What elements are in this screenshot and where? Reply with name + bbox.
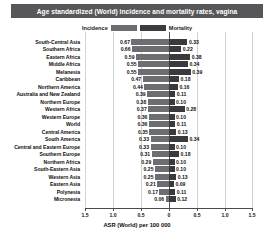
incidence-value-label: 0.66 xyxy=(121,46,131,52)
category-label: Western Africa xyxy=(0,106,83,114)
category-label: Micronesia xyxy=(0,196,83,204)
category-label: South America xyxy=(0,136,83,144)
incidence-group: 0.33 xyxy=(139,136,169,142)
mortality-group: 0.12 xyxy=(169,196,187,202)
bar-row: 0.060.12 xyxy=(85,196,253,204)
mortality-group: 0.33 xyxy=(169,39,199,45)
incidence-value-label: 0.44 xyxy=(133,84,143,90)
mortality-group: 0.10 xyxy=(169,114,186,120)
incidence-value-label: 0.47 xyxy=(131,76,141,82)
incidence-group: 0.25 xyxy=(144,174,169,180)
incidence-group: 0.35 xyxy=(138,129,169,135)
mortality-bar xyxy=(169,54,190,60)
bar-row: 0.390.11 xyxy=(85,91,253,99)
incidence-bar xyxy=(151,144,169,150)
mortality-group: 0.10 xyxy=(169,159,186,165)
incidence-group: 0.39 xyxy=(136,91,169,97)
incidence-group: 0.66 xyxy=(121,46,169,52)
category-label-text: Middle Africa xyxy=(49,61,80,67)
mortality-bar xyxy=(169,84,178,90)
incidence-value-label: 0.38 xyxy=(136,99,146,105)
bar-row: 0.380.10 xyxy=(85,98,253,106)
category-label: Southern Africa xyxy=(0,46,83,54)
incidence-bar xyxy=(149,121,169,127)
mortality-bar xyxy=(169,69,191,75)
incidence-group: 0.55 xyxy=(127,61,169,67)
mortality-value-label: 0.11 xyxy=(177,189,187,195)
bar-row: 0.550.34 xyxy=(85,61,253,69)
category-label: Western Europe xyxy=(0,113,83,121)
category-label-text: Melanesia xyxy=(56,69,80,75)
mortality-value-label: 0.10 xyxy=(176,114,186,120)
incidence-bar xyxy=(148,99,169,105)
mortality-group: 0.11 xyxy=(169,189,186,195)
bar-row: 0.670.33 xyxy=(85,38,253,46)
incidence-group: 0.36 xyxy=(137,114,169,120)
incidence-bar xyxy=(138,61,169,67)
mortality-group: 0.10 xyxy=(169,144,186,150)
bar-row: 0.330.34 xyxy=(85,136,253,144)
x-axis-tick xyxy=(252,208,253,211)
bar-row: 0.250.13 xyxy=(85,173,253,181)
incidence-value-label: 0.17 xyxy=(148,189,158,195)
bar-row: 0.290.10 xyxy=(85,158,253,166)
mortality-group: 0.34 xyxy=(169,136,199,142)
mortality-bar xyxy=(169,181,174,187)
category-label-text: Western Europe xyxy=(42,114,80,120)
chart-container: Age standardized (World) incidence and m… xyxy=(0,0,274,239)
incidence-group: 0.47 xyxy=(131,76,169,82)
mortality-group: 0.11 xyxy=(169,121,186,127)
page-title: Age standardized (World) incidence and m… xyxy=(37,8,237,15)
bar-row: 0.330.10 xyxy=(85,143,253,151)
mortality-value-label: 0.10 xyxy=(176,166,186,172)
incidence-bar xyxy=(136,54,169,60)
mortality-bar xyxy=(169,189,175,195)
incidence-value-label: 0.59 xyxy=(125,54,135,60)
category-label: Middle Africa xyxy=(0,61,83,69)
category-label: South-Eastern Asia xyxy=(0,166,83,174)
incidence-value-label: 0.36 xyxy=(137,114,147,120)
category-label-text: Western Asia xyxy=(49,174,80,180)
mortality-value-label: 0.10 xyxy=(176,159,186,165)
incidence-value-label: 0.36 xyxy=(137,121,147,127)
mortality-bar xyxy=(169,121,175,127)
mortality-value-label: 0.18 xyxy=(181,151,191,157)
mortality-value-label: 0.38 xyxy=(192,54,202,60)
incidence-bar xyxy=(143,76,169,82)
category-label: Melanesia xyxy=(0,68,83,76)
mortality-group: 0.28 xyxy=(169,106,196,112)
category-label-text: South-Central Asia xyxy=(35,39,80,45)
bar-row: 0.590.38 xyxy=(85,53,253,61)
category-label-text: Northern Africa xyxy=(44,159,80,165)
incidence-value-label: 0.35 xyxy=(138,129,148,135)
legend-label-mortality: Mortality xyxy=(169,25,192,31)
incidence-value-label: 0.25 xyxy=(144,166,154,172)
incidence-group: 0.25 xyxy=(144,166,169,172)
category-label-text: Australia and New Zealand xyxy=(16,91,80,97)
category-label-text: Northern Europe xyxy=(40,99,80,105)
category-label: Caribbean xyxy=(0,76,83,84)
mortality-group: 0.13 xyxy=(169,129,188,135)
category-label: World xyxy=(0,121,83,129)
mortality-bar xyxy=(169,99,175,105)
mortality-bar xyxy=(169,76,179,82)
category-label: South-Central Asia xyxy=(0,38,83,46)
mortality-group: 0.10 xyxy=(169,166,186,172)
incidence-group: 0.21 xyxy=(146,181,169,187)
incidence-value-label: 0.06 xyxy=(154,196,164,202)
x-axis-tick-label: 1.0 xyxy=(221,212,228,218)
category-label-text: Polynesia xyxy=(57,189,80,195)
incidence-bar xyxy=(157,181,169,187)
category-label: Central America xyxy=(0,128,83,136)
mortality-bar xyxy=(169,196,176,202)
mortality-bar xyxy=(169,159,175,165)
x-axis-tick xyxy=(197,208,198,211)
category-label-text: South America xyxy=(45,136,80,142)
category-label: Northern Europe xyxy=(0,98,83,106)
mortality-group: 0.39 xyxy=(169,69,202,75)
bar-row: 0.550.39 xyxy=(85,68,253,76)
bar-row: 0.360.11 xyxy=(85,121,253,129)
mortality-value-label: 0.11 xyxy=(177,121,187,127)
legend-swatch-incidence xyxy=(111,25,137,31)
category-label-text: Western Africa xyxy=(45,106,80,112)
